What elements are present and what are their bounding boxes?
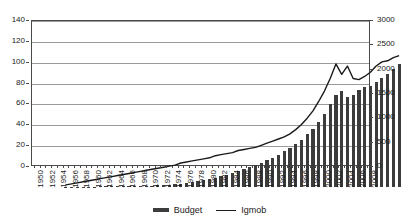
y-tickmark-right	[370, 20, 373, 21]
combo-chart: 020406080100120140 050010001500200025003…	[0, 0, 419, 223]
line-swatch-icon	[216, 210, 236, 211]
x-tickmark	[321, 166, 322, 168]
x-tickmark	[292, 166, 293, 168]
y-tickmark-left	[26, 83, 29, 84]
x-tickmark	[338, 166, 339, 168]
x-tickmark	[57, 166, 58, 168]
y-tick-left: 140	[12, 16, 25, 24]
y-tickmark-left	[26, 166, 29, 167]
x-tickmark	[361, 166, 362, 168]
x-tickmark	[166, 166, 167, 168]
x-tickmark	[201, 166, 202, 168]
x-tickmark	[91, 166, 92, 168]
y-tickmark-right	[370, 117, 373, 118]
x-tickmark	[350, 166, 351, 168]
x-tickmark	[45, 166, 46, 168]
x-tickmark	[223, 166, 224, 168]
legend-label-igmob: Igmob	[241, 206, 266, 215]
y-tick-right: 1500	[377, 89, 395, 97]
x-tickmark	[40, 166, 41, 168]
y-tick-left: 80	[16, 79, 25, 87]
x-tick-label: 1958	[83, 170, 91, 188]
x-tickmark	[315, 166, 316, 168]
y-tick-left: 0	[21, 162, 25, 170]
y-tickmark-left	[26, 124, 29, 125]
y-tick-left: 60	[16, 99, 25, 107]
x-tickmark	[189, 166, 190, 168]
x-tickmark	[206, 166, 207, 168]
x-tickmark	[51, 166, 52, 168]
x-tickmark	[252, 166, 253, 168]
x-tick-label: 1968	[141, 170, 149, 188]
x-tickmark	[287, 166, 288, 168]
y-tick-right: 0	[377, 162, 381, 170]
x-tickmark	[103, 166, 104, 168]
y-tick-right: 1000	[377, 113, 395, 121]
y-tickmark-left	[26, 103, 29, 104]
y-tick-right: 3000	[377, 16, 395, 24]
x-tickmark	[246, 166, 247, 168]
y-tick-left: 120	[12, 37, 25, 45]
x-tick-label: 1984	[233, 170, 241, 188]
x-tickmark	[333, 166, 334, 168]
x-tickmark	[367, 166, 368, 168]
x-tickmark	[172, 166, 173, 168]
x-tick-label: 1970	[152, 170, 160, 188]
x-tick-label: 1994	[290, 170, 298, 188]
x-tickmark	[235, 166, 236, 168]
x-tickmark	[327, 166, 328, 168]
x-tick-label: 1962	[106, 170, 114, 188]
bar-swatch-icon	[153, 208, 169, 212]
x-tick-label: 1996	[302, 170, 310, 188]
x-tickmark	[160, 166, 161, 168]
x-tickmark	[137, 166, 138, 168]
y-tickmark-right	[370, 142, 373, 143]
x-tickmark	[195, 166, 196, 168]
x-axis: 1950195219541956195819601962196419661968…	[31, 167, 370, 201]
x-tickmark	[218, 166, 219, 168]
x-tick-label: 1998	[313, 170, 321, 188]
x-tickmark	[281, 166, 282, 168]
y-tickmark-left	[26, 20, 29, 21]
x-tickmark	[229, 166, 230, 168]
y-axis-right: 050010001500200025003000	[370, 20, 418, 166]
x-tick-label: 1954	[60, 170, 68, 188]
x-tick-label: 1980	[210, 170, 218, 188]
x-tick-label: 1952	[49, 170, 57, 188]
x-tick-label: 1966	[129, 170, 137, 188]
y-tickmark-left	[26, 62, 29, 63]
y-tick-left: 20	[16, 141, 25, 149]
plot-area	[31, 20, 370, 166]
y-tick-left: 100	[12, 58, 25, 66]
x-tickmark	[97, 166, 98, 168]
x-tick-label: 1950	[37, 170, 45, 188]
x-tickmark	[34, 166, 35, 168]
x-tick-label: 1992	[279, 170, 287, 188]
x-tickmark	[109, 166, 110, 168]
x-tickmark	[269, 166, 270, 168]
x-tickmark	[241, 166, 242, 168]
chart-legend: Budget Igmob	[0, 202, 419, 218]
x-tickmark	[63, 166, 64, 168]
x-tickmark	[298, 166, 299, 168]
x-tick-label: 1990	[267, 170, 275, 188]
x-tickmark	[126, 166, 127, 168]
x-tickmark	[258, 166, 259, 168]
x-tick-label: 2000	[325, 170, 333, 188]
x-tickmark	[275, 166, 276, 168]
legend-item-igmob: Igmob	[216, 206, 266, 215]
x-tick-label: 2008	[371, 170, 379, 188]
gridline	[32, 21, 369, 22]
x-tickmark	[149, 166, 150, 168]
x-tickmark	[183, 166, 184, 168]
x-tick-label: 1974	[175, 170, 183, 188]
x-tickmark	[212, 166, 213, 168]
x-tick-label: 1982	[221, 170, 229, 188]
x-tick-label: 1988	[256, 170, 264, 188]
y-tick-right: 500	[377, 138, 390, 146]
y-tickmark-right	[370, 166, 373, 167]
x-tickmark	[74, 166, 75, 168]
x-tick-label: 1978	[198, 170, 206, 188]
y-tickmark-right	[370, 69, 373, 70]
y-tickmark-left	[26, 145, 29, 146]
